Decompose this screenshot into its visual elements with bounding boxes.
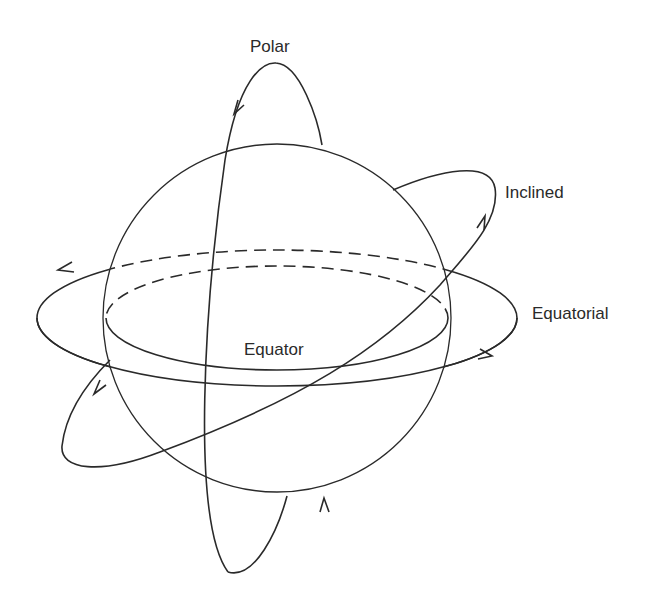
globe-outline: [103, 144, 451, 492]
arrow-icon: [477, 216, 485, 230]
equator-label: Equator: [244, 340, 304, 360]
inclined-orbit: [62, 171, 496, 467]
orbit-diagram: [0, 0, 646, 598]
inclined-label: Inclined: [505, 183, 564, 203]
arrow-icon: [58, 262, 74, 272]
polar-orbit: [205, 63, 329, 573]
equatorial-label: Equatorial: [532, 304, 609, 324]
arrow-icon: [94, 380, 106, 394]
polar-label: Polar: [250, 37, 290, 57]
arrow-icon: [320, 498, 329, 512]
